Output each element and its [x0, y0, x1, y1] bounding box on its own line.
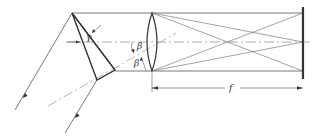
input-ray-lower: [65, 80, 97, 133]
input-ray-upper: [15, 13, 72, 110]
beta-label-lower: β: [133, 58, 139, 68]
focal-length-label: f: [228, 83, 234, 93]
prism: [72, 13, 115, 80]
dim-arrow-left-icon: [152, 86, 158, 89]
optical-diagram: γ β β f: [0, 0, 325, 138]
beta-label-upper: β: [136, 41, 142, 51]
dim-arrow-right-icon: [297, 86, 303, 89]
gamma-label: γ: [86, 32, 92, 42]
